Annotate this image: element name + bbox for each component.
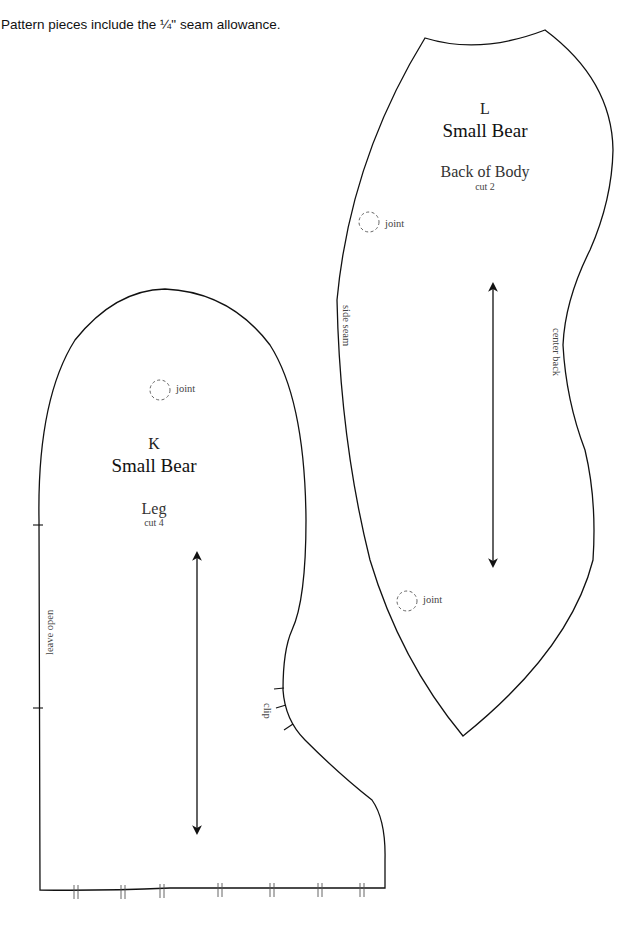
clip-tick-2	[276, 705, 286, 708]
body-joint-lower-icon	[397, 591, 417, 611]
body-joint-upper-icon	[359, 212, 379, 232]
leg-joint-icon	[150, 380, 170, 400]
leg-cut-count: cut 4	[114, 517, 194, 528]
leave-open-label: leave open	[44, 610, 55, 655]
leg-piece-letter: K	[114, 435, 194, 453]
center-back-label: center back	[551, 328, 562, 376]
leg-joint-label: joint	[176, 383, 195, 394]
body-cut-count: cut 2	[445, 181, 525, 192]
side-seam-label: side seam	[341, 305, 352, 346]
body-piece-title: Small Bear	[405, 120, 565, 142]
body-joint-lower-label: joint	[423, 594, 442, 605]
body-piece-name: Back of Body	[405, 163, 565, 181]
clip-tick-3	[284, 724, 293, 730]
leg-piece-title: Small Bear	[74, 455, 234, 477]
clip-label: clip	[262, 703, 273, 719]
bottom-notch-marks	[74, 883, 364, 899]
leg-piece-outline	[39, 289, 385, 890]
body-piece-letter: L	[445, 100, 525, 118]
leg-piece-name: Leg	[114, 500, 194, 518]
body-joint-upper-label: joint	[385, 218, 404, 229]
